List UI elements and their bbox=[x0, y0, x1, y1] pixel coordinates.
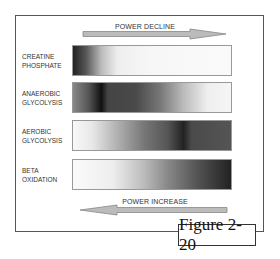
figure-number-text: Figure 2-20 bbox=[179, 215, 255, 255]
figure-number-label: Figure 2-20 bbox=[178, 224, 256, 246]
